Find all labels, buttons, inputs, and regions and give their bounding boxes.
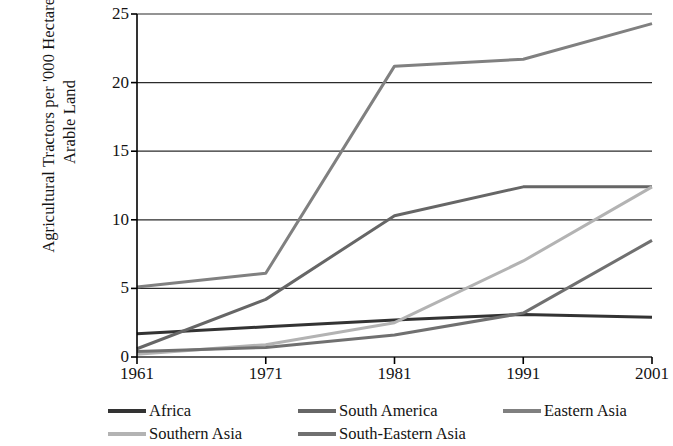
- series-line-eastern-asia: [137, 24, 652, 287]
- x-axis-ticks: [137, 357, 652, 364]
- legend-label: Southern Asia: [149, 425, 242, 443]
- x-axis-tick-label: 1981: [355, 364, 435, 384]
- legend-swatch-line-icon: [503, 409, 541, 413]
- plot-svg: [137, 14, 652, 357]
- series-lines: [137, 24, 652, 355]
- y-axis-title: Agricultural Tractors per '000 Hectares …: [38, 0, 82, 302]
- plot-area: [137, 14, 652, 357]
- legend-row: AfricaSouth AmericaEastern Asia: [108, 400, 653, 422]
- axis-lines: [131, 14, 137, 357]
- legend-swatch-line-icon: [108, 432, 146, 436]
- y-axis-tick-label: 25: [89, 5, 129, 22]
- legend-label: Eastern Asia: [544, 402, 627, 420]
- y-axis-tick-labels: 0510152025: [85, 0, 129, 380]
- y-axis-tick-label: 5: [89, 279, 129, 296]
- legend-swatch-line-icon: [108, 409, 146, 413]
- x-axis-tick-label: 1971: [226, 364, 306, 384]
- y-axis-tick-label: 10: [89, 211, 129, 228]
- legend-item[interactable]: South America: [298, 400, 438, 422]
- legend-swatch-line-icon: [298, 409, 336, 413]
- legend-label: Africa: [149, 402, 191, 420]
- legend-item[interactable]: Africa: [108, 400, 191, 422]
- x-axis-tick-label: 1991: [483, 364, 563, 384]
- y-axis-tick-label: 0: [89, 348, 129, 365]
- legend-label: South-Eastern Asia: [339, 425, 466, 443]
- chart-legend: AfricaSouth AmericaEastern Asia Southern…: [108, 400, 653, 446]
- x-axis-tick-label: 1961: [97, 364, 177, 384]
- series-line-south-america: [137, 187, 652, 349]
- legend-label: South America: [339, 402, 438, 420]
- y-axis-tick-label: 20: [89, 74, 129, 91]
- legend-row: Southern AsiaSouth-Eastern Asia: [108, 423, 653, 445]
- y-axis-tick-label: 15: [89, 142, 129, 159]
- legend-item[interactable]: South-Eastern Asia: [298, 423, 466, 445]
- x-axis-tick-label: 2001: [612, 364, 673, 384]
- series-line-south-eastern-asia: [137, 240, 652, 351]
- legend-item[interactable]: Southern Asia: [108, 423, 242, 445]
- x-axis-tick-labels: 19611971198119912001: [137, 364, 652, 388]
- legend-swatch-line-icon: [298, 432, 336, 436]
- legend-item[interactable]: Eastern Asia: [503, 400, 627, 422]
